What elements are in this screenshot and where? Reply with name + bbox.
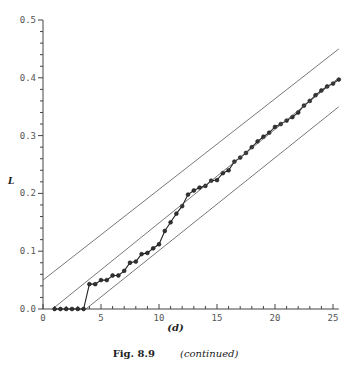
y-axis-label: L: [7, 176, 14, 186]
data-point-marker: [151, 246, 155, 250]
series-observed: [55, 80, 339, 310]
data-point-marker: [122, 269, 126, 273]
data-point-marker: [70, 307, 74, 311]
chart: 05101520250.00.10.20.30.40.5 L: [0, 0, 351, 371]
figure-number: Fig. 8.9: [113, 348, 155, 359]
data-point-marker: [134, 260, 138, 264]
data-point-marker: [192, 189, 196, 193]
figure-caption: Fig. 8.9 (continued): [0, 348, 351, 359]
data-point-marker: [128, 261, 132, 265]
data-point-marker: [82, 307, 86, 311]
data-point-marker: [88, 282, 92, 286]
data-point-marker: [140, 252, 144, 256]
data-point-marker: [186, 193, 190, 197]
data-point-marker: [175, 212, 179, 216]
data-point-marker: [99, 278, 103, 282]
data-point-marker: [105, 278, 109, 282]
data-point-marker: [180, 204, 184, 208]
y-tick-label: 0.3: [20, 131, 36, 141]
data-point-marker: [215, 178, 219, 182]
data-point-marker: [53, 307, 57, 311]
y-tick-label: 0.1: [20, 246, 36, 256]
axes: 05101520250.00.10.20.30.40.5: [20, 15, 339, 323]
data-point-marker: [146, 251, 150, 255]
series-upper-band: [43, 49, 339, 280]
series-center-line: [55, 78, 339, 307]
caption-note: (continued): [180, 348, 238, 359]
data-point-marker: [76, 307, 80, 311]
y-tick-label: 0.0: [20, 304, 36, 314]
y-tick-label: 0.4: [20, 73, 36, 83]
data-point-marker: [59, 307, 63, 311]
data-point-marker: [169, 220, 173, 224]
y-tick-label: 0.2: [20, 188, 36, 198]
series-lower-band: [86, 107, 339, 309]
data-point-marker: [227, 168, 231, 172]
plot-series: [43, 49, 341, 311]
data-point-marker: [117, 274, 121, 278]
data-point-marker: [93, 282, 97, 286]
data-point-marker: [163, 229, 167, 233]
data-point-marker: [111, 274, 115, 278]
data-point-marker: [157, 242, 161, 246]
panel-label: (d): [0, 322, 351, 333]
y-tick-label: 0.5: [20, 15, 36, 25]
data-point-marker: [64, 307, 68, 311]
